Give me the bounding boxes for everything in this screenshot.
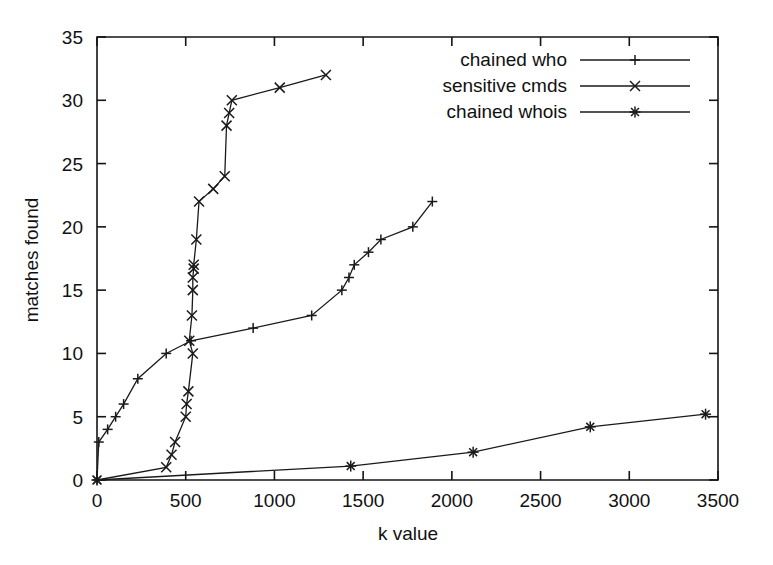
y-tick-label: 20 [62,217,83,238]
x-axis-title: k value [378,523,438,544]
data-point-cross [208,184,218,194]
data-point-cross [167,450,177,460]
x-tick-label: 500 [170,490,202,511]
y-axis-title: matches found [21,198,42,323]
x-tick-label: 2500 [519,490,561,511]
data-point-asterisk [700,409,711,420]
data-point-cross [275,83,285,93]
legend-label-2: chained whois [447,101,567,122]
data-point-cross [224,108,234,118]
legend-label-0: chained who [460,49,567,70]
chart-legend: chained whosensitive cmdschained whois [442,49,690,122]
series-chained-who [93,197,438,485]
data-point-plus [248,323,258,333]
y-tick-label: 25 [62,154,83,175]
data-point-asterisk [585,421,596,432]
x-tick-label: 2000 [431,490,473,511]
x-tick-label: 1500 [342,490,384,511]
legend-label-1: sensitive cmds [442,75,567,96]
plot-frame [97,37,718,480]
axis-ticks [97,37,718,480]
data-point-asterisk [468,447,479,458]
data-point-plus [119,399,129,409]
y-tick-label: 35 [62,27,83,48]
y-tick-label: 0 [72,470,83,491]
data-point-plus [111,412,121,422]
data-point-cross [170,437,180,447]
x-tick-label: 3000 [608,490,650,511]
data-point-plus [103,424,113,434]
series-line [97,75,326,480]
series-sensitive-cmds [93,70,331,485]
data-point-asterisk [630,107,641,118]
data-point-plus [344,272,354,282]
y-tick-label: 30 [62,90,83,111]
series-line [97,202,432,480]
x-tick-label: 3500 [697,490,739,511]
y-tick-label: 5 [72,407,83,428]
data-point-plus [630,55,640,65]
y-tick-label: 15 [62,280,83,301]
series-line [97,414,706,480]
axis-tick-labels: 0510152025303505001000150020002500300035… [62,27,739,511]
data-point-cross [321,70,331,80]
x-tick-label: 0 [92,490,103,511]
data-point-asterisk [345,461,356,472]
data-series [92,70,712,486]
line-chart: 0510152025303505001000150020002500300035… [0,0,773,565]
chart-container: 0510152025303505001000150020002500300035… [0,0,773,565]
y-tick-label: 10 [62,343,83,364]
data-point-plus [94,437,104,447]
axes [97,37,718,480]
x-tick-label: 1000 [253,490,295,511]
data-point-cross [227,95,237,105]
data-point-plus [186,336,196,346]
data-point-asterisk [92,475,103,486]
